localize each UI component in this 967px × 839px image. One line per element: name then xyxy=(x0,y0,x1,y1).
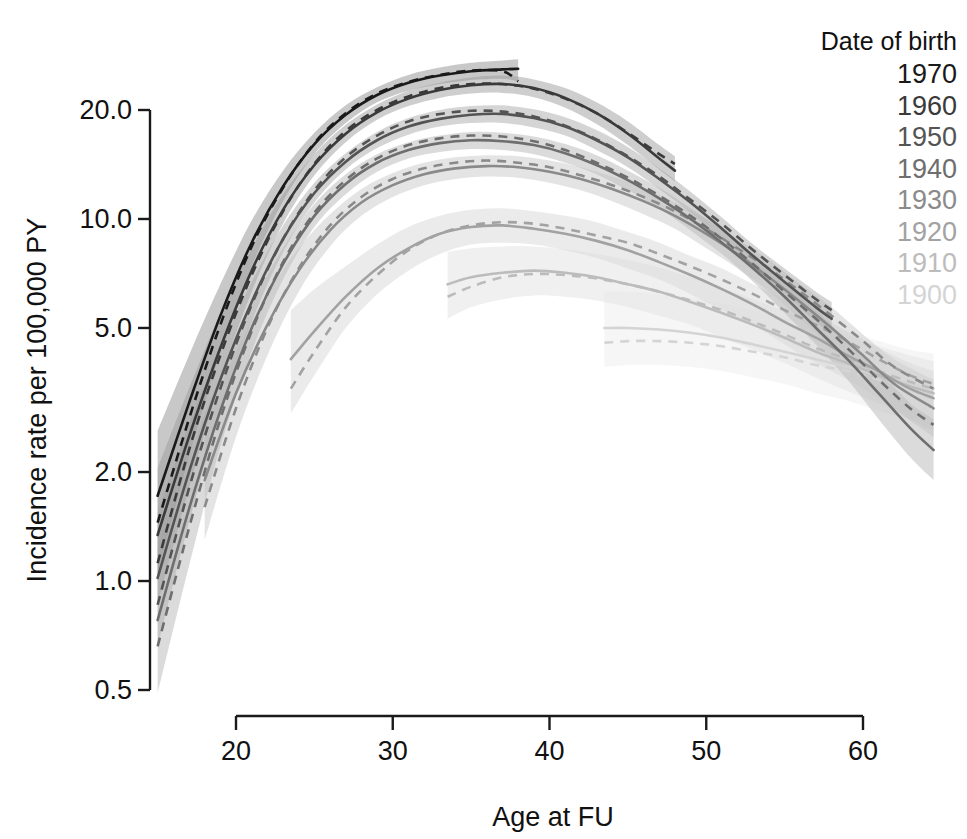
legend-entry-1910: 1910 xyxy=(897,248,957,278)
y-tick-label-0.5: 0.5 xyxy=(94,675,132,705)
legend-title: Date of birth xyxy=(821,27,957,55)
legend-entry-1930: 1930 xyxy=(897,185,957,215)
x-tick-label-60: 60 xyxy=(848,736,878,766)
legend-entries: 19701960195019401930192019101900 xyxy=(897,59,957,310)
x-tick-label-40: 40 xyxy=(534,736,564,766)
y-axis: 0.51.02.05.010.020.0 xyxy=(79,95,150,705)
legend-entry-1940: 1940 xyxy=(897,154,957,184)
y-tick-label-2.0: 2.0 xyxy=(94,457,132,487)
legend-entry-1920: 1920 xyxy=(897,217,957,247)
legend-entry-1970: 1970 xyxy=(897,59,957,89)
y-axis-title: Incidence rate per 100,000 PY xyxy=(22,218,52,583)
confidence-bands xyxy=(158,59,934,693)
x-axis-ticks: 2030405060 xyxy=(221,716,878,766)
y-axis-ticks: 0.51.02.05.010.020.0 xyxy=(79,95,150,705)
y-tick-label-1.0: 1.0 xyxy=(94,566,132,596)
y-tick-label-10.0: 10.0 xyxy=(79,204,132,234)
chart-figure: 0.51.02.05.010.020.0 2030405060 Age at F… xyxy=(0,0,967,839)
x-tick-label-50: 50 xyxy=(691,736,721,766)
legend: Date of birth 19701960195019401930192019… xyxy=(821,27,957,310)
x-tick-label-20: 20 xyxy=(221,736,251,766)
x-tick-label-30: 30 xyxy=(378,736,408,766)
legend-entry-1900: 1900 xyxy=(897,280,957,310)
x-axis: 2030405060 xyxy=(221,716,878,766)
y-tick-label-5.0: 5.0 xyxy=(94,313,132,343)
y-tick-label-20.0: 20.0 xyxy=(79,95,132,125)
legend-entry-1950: 1950 xyxy=(897,122,957,152)
incidence-rate-by-cohort-chart: 0.51.02.05.010.020.0 2030405060 Age at F… xyxy=(0,0,967,839)
legend-entry-1960: 1960 xyxy=(897,91,957,121)
x-axis-title: Age at FU xyxy=(492,802,614,832)
